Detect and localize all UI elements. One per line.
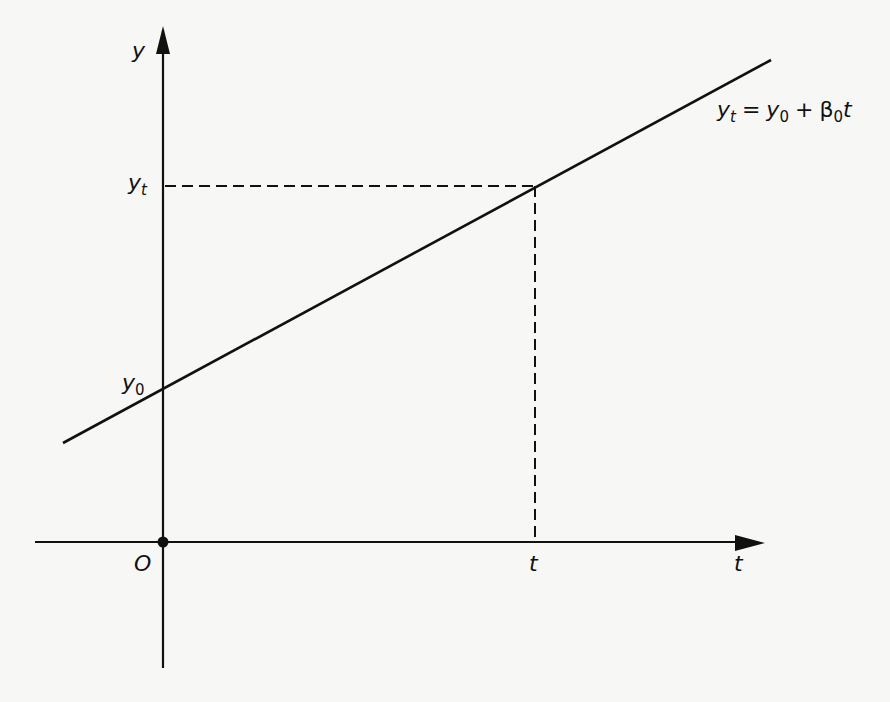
- origin-label: O: [134, 553, 151, 575]
- line-equation: yt=y0+β0t: [717, 99, 852, 121]
- x-axis-arrow-icon: [735, 535, 765, 551]
- origin-dot: [158, 537, 169, 548]
- eq-term1-main: y: [766, 97, 779, 122]
- eq-var: t: [843, 97, 852, 122]
- yt-label: yt: [128, 172, 147, 194]
- x-axis-label: t: [734, 553, 743, 575]
- eq-term1-sub: 0: [779, 108, 789, 126]
- t-marker-label-text: t: [529, 551, 538, 576]
- diagram-stage: y yt y0 O t t yt=y0+β0t: [0, 0, 890, 702]
- y-axis-arrow-icon: [156, 26, 170, 54]
- t-marker-label: t: [529, 553, 538, 575]
- yt-label-sub: t: [141, 181, 147, 199]
- eq-plus: +: [789, 97, 819, 122]
- y0-label: y0: [122, 372, 145, 394]
- eq-beta: β: [819, 97, 833, 122]
- y0-label-sub: 0: [135, 381, 145, 399]
- eq-beta-sub: 0: [833, 108, 843, 126]
- origin-label-text: O: [134, 551, 151, 576]
- y0-label-main: y: [122, 370, 135, 395]
- yt-label-main: y: [128, 170, 141, 195]
- y-axis-label: y: [132, 40, 145, 62]
- x-axis-label-text: t: [734, 551, 743, 576]
- growth-line: [63, 60, 771, 443]
- y-axis-label-text: y: [132, 38, 145, 63]
- eq-lhs-main: y: [717, 97, 730, 122]
- eq-equals: =: [736, 97, 766, 122]
- eq-lhs-sub: t: [730, 108, 736, 126]
